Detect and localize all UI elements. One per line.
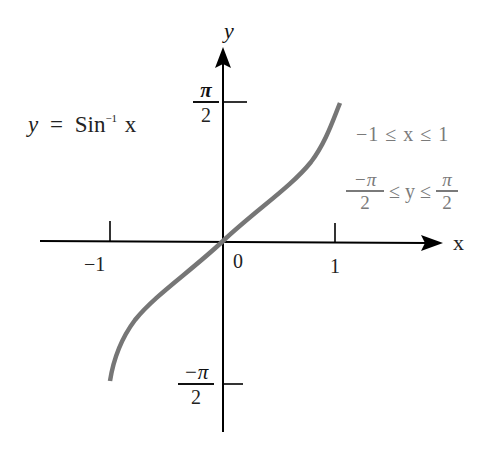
function-title: y = Sin−1 x: [28, 112, 136, 138]
title-function: Sin: [75, 112, 106, 137]
title-equals: =: [50, 112, 63, 137]
y-tick-minus-pi-numerator: −π: [176, 362, 216, 382]
x-axis-label: x: [453, 230, 464, 256]
y-tick-pi-numerator: π: [193, 80, 219, 100]
y-tick-label-pi-over-2: π 2: [193, 80, 219, 126]
y-tick-pi-denominator: 2: [193, 104, 219, 126]
x-axis: [40, 235, 443, 251]
range-lower-fraction: −π 2: [346, 170, 384, 213]
y-axis-label: y: [224, 18, 234, 44]
x-tick-label-minus-1: −1: [84, 253, 105, 276]
range-middle: ≤ y ≤: [389, 180, 431, 203]
arcsin-graph: y x −1 0 1 π 2 −π 2 y = Sin−1 x −1 ≤ x ≤…: [0, 0, 504, 452]
origin-label: 0: [233, 250, 243, 273]
y-tick-minus-pi-denominator: 2: [176, 386, 216, 408]
range-annotation: −π 2 ≤ y ≤ π 2: [346, 170, 458, 213]
range-upper-fraction: π 2: [436, 170, 458, 213]
title-argument: x: [125, 112, 137, 137]
domain-annotation: −1 ≤ x ≤ 1: [356, 123, 449, 146]
title-lhs: y: [28, 112, 38, 137]
x-tick-label-1: 1: [330, 255, 340, 278]
range-lower-numerator: −π: [346, 170, 384, 189]
range-upper-denominator: 2: [436, 193, 458, 213]
y-tick-label-minus-pi-over-2: −π 2: [176, 362, 216, 408]
title-superscript: −1: [105, 112, 117, 124]
range-lower-denominator: 2: [346, 193, 384, 213]
range-upper-numerator: π: [436, 170, 458, 189]
